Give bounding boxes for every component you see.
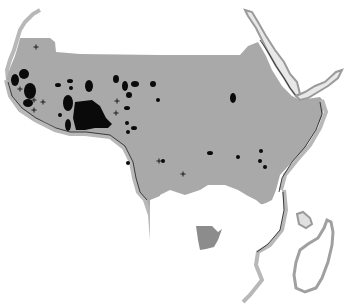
distribution-spot [131,81,139,87]
distribution-spot [126,92,132,98]
distribution-spot [258,159,262,163]
distribution-spot [124,106,130,110]
distribution-spot [85,80,93,92]
distribution-spot [24,83,36,99]
distribution-spot [67,79,73,83]
distribution-spot [113,75,119,83]
distribution-spot [150,81,156,87]
distribution-spot [58,113,62,117]
africa-map [0,0,353,304]
distribution-spot [259,149,263,153]
gulf-of-guinea [0,134,150,304]
distribution-spot [55,83,61,87]
distribution-spot [126,130,130,134]
distribution-spot [122,81,128,91]
distribution-spot [63,95,73,111]
distribution-spot [125,121,129,125]
distribution-spot [11,74,19,86]
distribution-spot [263,165,267,169]
distribution-spot [230,93,236,103]
distribution-spot [65,119,71,131]
distribution-spot [19,69,29,79]
distribution-spot [161,159,165,163]
distribution-spot [126,161,130,165]
distribution-spot [236,155,240,159]
distribution-spot [69,86,73,90]
distribution-spot [156,98,160,102]
distribution-spot [207,151,213,155]
southern-cut [150,186,285,304]
distribution-spot [131,126,137,130]
